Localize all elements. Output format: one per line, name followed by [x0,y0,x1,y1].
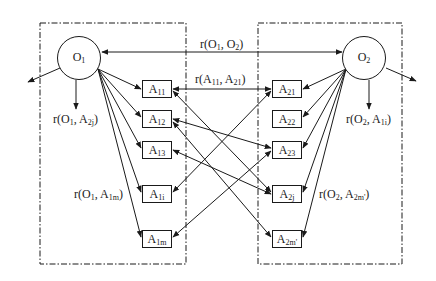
attr-box-a11: A11 [142,80,172,98]
attr-box-a23: A23 [272,141,302,159]
attr-box-a13: A13 [142,141,172,159]
node-o2: O2 [342,36,386,80]
edge-o1-a13 [98,69,141,148]
attr-box-a22: A22 [272,110,302,128]
edge-a13-a2j [173,150,271,194]
attr-box-a1m: A1m [142,230,172,248]
label-r-o1-o2: r(O1, O2) [200,37,243,51]
edge-o2-out-right [386,68,416,81]
attr-box-a2j: A2j [272,185,302,203]
edge-o2-a2m [303,69,346,237]
attr-box-a1i: A1i [142,185,172,203]
edge-a1m-a23 [173,151,271,237]
edge-a12-a23 [173,119,271,148]
attr-box-a12: A12 [142,110,172,128]
label-r-a11-a21: r(A11, A21) [195,72,245,86]
attr-box-a2m: A2m' [272,230,302,248]
attr-box-a21: A21 [272,80,302,98]
label-r-o1-a2j: r(O1, A2j) [53,112,98,126]
edge-a12-a2m [173,122,271,237]
edge-o1-out-left [28,68,60,82]
relationship-diagram: O1 O2 A11 A12 A13 A1i A1m A21 A22 A23 A2… [0,0,436,281]
edge-o2-a23 [303,69,346,148]
label-r-o1-a1m: r(O1, A1m) [74,187,123,201]
label-r-o2-a2m: r(O2, A2m') [319,187,369,201]
label-r-o2-a1i: r(O2, A1i) [346,112,391,126]
edge-o1-a1i [98,69,141,192]
node-o1: O1 [57,36,101,80]
edge-o2-a2j [303,69,346,192]
edge-o1-a1m [98,69,141,237]
